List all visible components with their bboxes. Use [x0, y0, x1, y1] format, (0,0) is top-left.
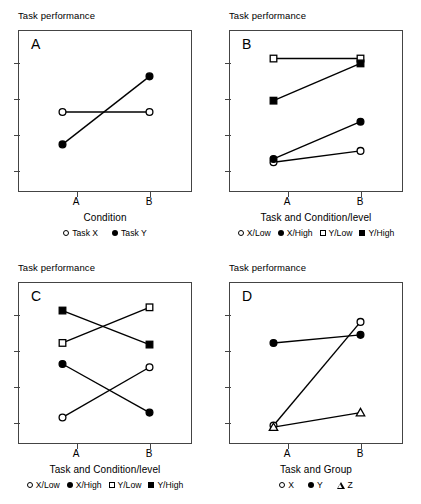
legend-label: X/High — [76, 481, 102, 490]
series-line — [63, 367, 150, 417]
panel-d: Task performance D A B Task and Group X … — [211, 252, 421, 504]
x-tick-label: A — [277, 196, 297, 207]
circle-filled-marker-icon — [270, 340, 277, 347]
square-filled-marker-icon — [146, 341, 153, 348]
circle-filled-marker-icon — [357, 118, 364, 125]
legend-item: X/High — [67, 481, 102, 490]
legend-item: Task X — [63, 229, 98, 238]
legend-label: Z — [348, 481, 353, 490]
plot-area-a: A — [18, 30, 192, 192]
plot-area-d: D — [229, 282, 403, 444]
legend-item: Z — [337, 481, 353, 490]
square-filled-marker-icon — [148, 482, 154, 488]
circle-filled-marker-icon — [278, 230, 284, 236]
series-line — [274, 122, 361, 159]
x-tick-label: B — [350, 448, 370, 459]
series-line — [63, 307, 150, 343]
series-line — [274, 322, 361, 426]
legend-a: Task X Task Y — [0, 229, 210, 238]
legend-b: X/Low X/High Y/Low Y/High — [211, 229, 421, 238]
plot-area-c: C — [18, 282, 192, 444]
panel-a: Task performance A A B Condition Task X … — [0, 0, 210, 252]
circle-filled-marker-icon — [67, 482, 73, 488]
legend-label: Y/Low — [329, 229, 353, 238]
legend-c: X/Low X/High Y/Low Y/High — [0, 481, 210, 490]
legend-item: X — [279, 481, 294, 490]
x-axis-label: Task and Condition/level — [211, 212, 421, 223]
circle-open-marker-icon — [59, 109, 66, 116]
circle-filled-marker-icon — [112, 230, 118, 236]
square-filled-marker-icon — [270, 97, 277, 104]
series-layer-c — [19, 283, 193, 445]
x-tick-label: B — [139, 448, 159, 459]
legend-label: X — [288, 481, 294, 490]
square-open-marker-icon — [146, 304, 153, 311]
legend-label: X/Low — [247, 229, 271, 238]
legend-item: Y — [308, 481, 323, 490]
triangle-open-marker-icon — [356, 408, 364, 415]
series-layer-b — [230, 31, 404, 193]
legend-label: Y/Low — [118, 481, 142, 490]
x-axis-label: Task and Condition/level — [0, 464, 210, 475]
legend-label: Y — [317, 481, 323, 490]
square-filled-marker-icon — [359, 230, 365, 236]
legend-item: X/Low — [27, 481, 60, 490]
legend-item: Task Y — [112, 229, 147, 238]
x-axis-label: Task and Group — [211, 464, 421, 475]
panel-b: Task performance B A B Task and Conditio… — [211, 0, 421, 252]
circle-open-marker-icon — [146, 364, 153, 371]
series-layer-d — [230, 283, 404, 445]
x-tick-label: A — [66, 196, 86, 207]
x-tick-label: B — [139, 196, 159, 207]
circle-filled-marker-icon — [146, 73, 153, 80]
circle-filled-marker-icon — [270, 156, 277, 163]
legend-item: X/High — [278, 229, 313, 238]
y-axis-label: Task performance — [229, 10, 306, 21]
square-open-marker-icon — [59, 340, 66, 347]
series-layer-a — [19, 31, 193, 193]
square-filled-marker-icon — [357, 60, 364, 67]
circle-open-marker-icon — [63, 230, 69, 236]
circle-filled-marker-icon — [59, 141, 66, 148]
legend-d: X Y Z — [211, 481, 421, 490]
x-tick-label: B — [350, 196, 370, 207]
x-tick-label: A — [277, 448, 297, 459]
y-axis-label: Task performance — [18, 262, 95, 273]
four-panel-line-chart-figure: Task performance A A B Condition Task X … — [0, 0, 421, 504]
legend-label: Y/High — [368, 229, 394, 238]
circle-open-marker-icon — [279, 482, 285, 488]
legend-item: Y/High — [359, 229, 394, 238]
legend-item: X/Low — [238, 229, 271, 238]
circle-filled-marker-icon — [146, 409, 153, 416]
circle-open-marker-icon — [238, 230, 244, 236]
square-filled-marker-icon — [59, 307, 66, 314]
y-axis-label: Task performance — [18, 10, 95, 21]
circle-open-marker-icon — [27, 482, 33, 488]
circle-open-marker-icon — [146, 109, 153, 116]
triangle-open-marker-icon — [337, 482, 345, 489]
circle-open-marker-icon — [59, 414, 66, 421]
square-open-marker-icon — [270, 55, 277, 62]
circle-filled-marker-icon — [59, 361, 66, 368]
circle-filled-marker-icon — [357, 331, 364, 338]
series-line — [274, 413, 361, 428]
legend-label: Task Y — [121, 229, 147, 238]
legend-item: Y/Low — [109, 481, 142, 490]
circle-filled-marker-icon — [308, 482, 314, 488]
legend-label: X/Low — [36, 481, 60, 490]
square-open-marker-icon — [320, 230, 326, 236]
series-line — [63, 364, 150, 413]
plot-area-b: B — [229, 30, 403, 192]
legend-label: X/High — [287, 229, 313, 238]
x-axis-label: Condition — [0, 212, 210, 223]
series-line — [274, 151, 361, 162]
circle-open-marker-icon — [357, 318, 364, 325]
legend-item: Y/Low — [320, 229, 353, 238]
x-tick-label: A — [66, 448, 86, 459]
circle-open-marker-icon — [357, 147, 364, 154]
series-line — [274, 335, 361, 343]
series-line — [274, 63, 361, 100]
legend-label: Task X — [72, 229, 98, 238]
panel-c: Task performance C A B Task and Conditio… — [0, 252, 210, 504]
y-axis-label: Task performance — [229, 262, 306, 273]
